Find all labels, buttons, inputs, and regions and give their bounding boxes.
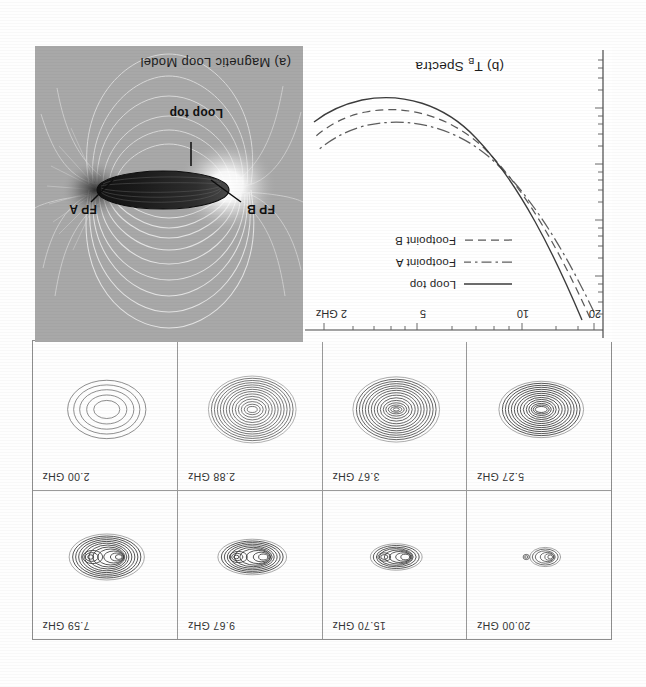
contour-plot: [33, 341, 178, 490]
annotation-loop-top: Loop top: [169, 106, 223, 120]
contour-plot: [179, 491, 323, 639]
contour-map-panel: 20.00 GHz: [467, 490, 612, 639]
contour-frequency-label: 15.70 GHz: [332, 620, 386, 632]
contour-map-panel: 9.67 GHz: [178, 490, 323, 639]
curve-footpoint-a: [318, 122, 594, 312]
panel-b-title-prefix: (b) T: [474, 59, 504, 74]
legend-label-loop-top: Loop top: [410, 279, 456, 291]
contour-frequency-label: 3.67 GHz: [332, 471, 380, 483]
contour-frequency-label: 2.88 GHz: [188, 471, 236, 483]
contour-frequency-label: 7.59 GHz: [42, 620, 90, 632]
annotation-fp-a: FP A: [69, 202, 97, 216]
contour-frequency-label: 5.27 GHz: [477, 471, 525, 483]
contour-map-panel: 2.00 GHz: [33, 341, 178, 490]
panel-b-title-subscript: B: [468, 56, 474, 66]
panel-b-title: (b) TB Spectra: [415, 56, 504, 74]
contour-frequency-label: 2.00 GHz: [42, 471, 90, 483]
contour-frequency-label: 20.00 GHz: [477, 620, 531, 632]
xtick-label-2ghz: 2 GHz: [316, 308, 347, 320]
magnetic-field-diagram: [35, 46, 303, 342]
contour-plot: [468, 341, 612, 490]
legend-label-footpoint-b: Footpoint B: [395, 235, 456, 247]
xtick-label-10: 10: [517, 308, 529, 320]
panel-b-title-suffix: Spectra: [415, 59, 468, 74]
panel-a-title: (a) Magnetic Loop Model: [140, 55, 291, 70]
contour-plot: [323, 341, 467, 490]
figure-root: 20.00 GHz 15.70 GH: [0, 0, 646, 687]
contour-frequency-label: 9.67 GHz: [188, 620, 236, 632]
tb-spectra-panel: 2 GHz 5 10 20 Loop top Footpoint A Footp…: [303, 46, 612, 342]
contour-plot: [33, 491, 178, 639]
legend-samples: [464, 240, 512, 284]
contour-plot: [468, 491, 612, 639]
contour-map-panel: 2.88 GHz: [178, 341, 323, 490]
legend-label-footpoint-a: Footpoint A: [396, 257, 456, 269]
contour-map-panel: 3.67 GHz: [322, 341, 467, 490]
xtick-label-5: 5: [420, 308, 426, 320]
contour-map-panel: 15.70 GHz: [322, 490, 467, 639]
annotation-fp-b: FP B: [247, 202, 275, 216]
contour-plot: [323, 491, 467, 639]
spectra-plot: [303, 46, 612, 342]
contour-map-grid: 20.00 GHz 15.70 GH: [32, 340, 612, 640]
xtick-label-20: 20: [589, 308, 601, 320]
contour-map-panel: 5.27 GHz: [467, 341, 612, 490]
contour-map-panel: 7.59 GHz: [33, 490, 178, 639]
contour-plot: [179, 341, 323, 490]
magnetic-loop-model-panel: FP B FP A Loop top (a) Magnetic Loop Mod…: [35, 46, 303, 342]
